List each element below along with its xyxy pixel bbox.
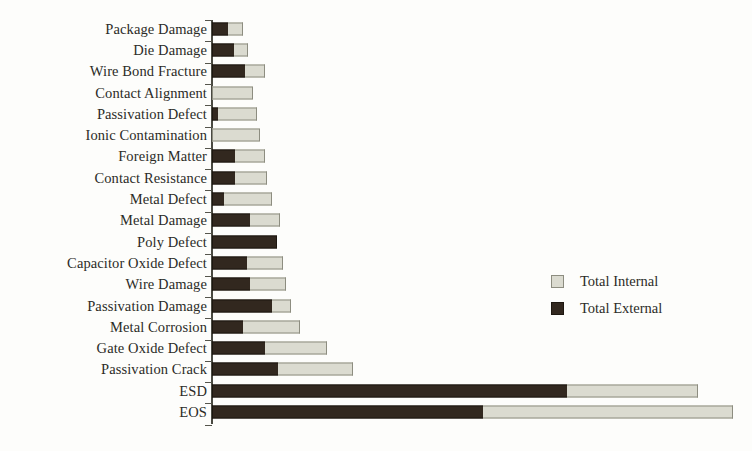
bar-segment-total-internal[interactable]: [250, 278, 286, 291]
stacked-bar[interactable]: [212, 86, 253, 99]
category-label: Wire Damage: [126, 277, 207, 292]
bar-row: Metal Damage: [0, 210, 752, 231]
bar-segment-total-external[interactable]: [212, 256, 247, 269]
bar-segment-total-external[interactable]: [212, 22, 228, 35]
chart-legend: Total Internal Total External: [551, 268, 741, 322]
bar-segment-total-external[interactable]: [212, 65, 245, 78]
legend-label-total-external: Total External: [580, 301, 662, 316]
bar-segment-total-external[interactable]: [212, 363, 278, 376]
stacked-bar[interactable]: [212, 299, 291, 312]
bar-segment-total-internal[interactable]: [265, 342, 327, 355]
stacked-bar[interactable]: [212, 235, 277, 248]
y-axis-tick: [205, 41, 212, 42]
bar-segment-total-internal[interactable]: [247, 256, 283, 269]
y-axis-tick: [205, 169, 212, 170]
category-label: Die Damage: [133, 43, 207, 58]
category-label: Ionic Contamination: [85, 128, 207, 143]
bar-segment-total-internal[interactable]: [224, 193, 272, 206]
stacked-bar[interactable]: [212, 384, 698, 397]
bar-segment-total-internal[interactable]: [235, 150, 265, 163]
bar-segment-total-external[interactable]: [212, 342, 265, 355]
bar-row: EOS: [0, 401, 752, 422]
legend-entry-total-internal[interactable]: Total Internal: [551, 268, 741, 295]
bar-segment-total-external[interactable]: [212, 43, 234, 56]
stacked-bar[interactable]: [212, 22, 243, 35]
category-label: Gate Oxide Defect: [97, 341, 207, 356]
category-label: Metal Damage: [120, 213, 207, 228]
bar-row: Foreign Matter: [0, 146, 752, 167]
bar-segment-total-internal[interactable]: [212, 86, 253, 99]
bar-segment-total-internal[interactable]: [212, 129, 260, 142]
bar-segment-total-external[interactable]: [212, 299, 272, 312]
category-label: Capacitor Oxide Defect: [67, 256, 207, 271]
stacked-bar[interactable]: [212, 320, 300, 333]
y-axis-tick: [205, 84, 212, 85]
y-axis-tick: [205, 340, 212, 341]
stacked-bar[interactable]: [212, 107, 257, 120]
category-label: Foreign Matter: [118, 149, 207, 164]
bar-row: Contact Alignment: [0, 82, 752, 103]
bar-segment-total-internal[interactable]: [234, 43, 248, 56]
y-axis-tick: [205, 212, 212, 213]
y-axis-tick: [205, 233, 212, 234]
y-axis-tick: [205, 425, 212, 426]
stacked-bar[interactable]: [212, 342, 327, 355]
category-label: ESD: [179, 383, 207, 398]
legend-swatch-external-icon: [551, 302, 564, 315]
bar-row: Die Damage: [0, 39, 752, 60]
legend-entry-total-external[interactable]: Total External: [551, 295, 741, 322]
bar-segment-total-external[interactable]: [212, 171, 235, 184]
bar-segment-total-internal[interactable]: [228, 22, 243, 35]
stacked-bar[interactable]: [212, 363, 353, 376]
y-axis-tick: [205, 297, 212, 298]
failure-mode-bar-chart: Package DamageDie DamageWire Bond Fractu…: [0, 0, 752, 451]
bar-segment-total-internal[interactable]: [250, 214, 280, 227]
bar-row: Passivation Defect: [0, 103, 752, 124]
category-label: Package Damage: [105, 21, 207, 36]
bar-segment-total-internal[interactable]: [272, 299, 291, 312]
bar-row: Passivation Crack: [0, 359, 752, 380]
stacked-bar[interactable]: [212, 193, 272, 206]
bar-segment-total-external[interactable]: [212, 214, 250, 227]
bar-segment-total-internal[interactable]: [567, 384, 698, 397]
stacked-bar[interactable]: [212, 129, 260, 142]
bar-segment-total-external[interactable]: [212, 150, 235, 163]
y-axis-tick: [205, 361, 212, 362]
bar-segment-total-internal[interactable]: [245, 65, 265, 78]
bar-segment-total-internal[interactable]: [483, 405, 733, 418]
stacked-bar[interactable]: [212, 405, 733, 418]
stacked-bar[interactable]: [212, 43, 248, 56]
category-label: Passivation Crack: [101, 362, 207, 377]
stacked-bar[interactable]: [212, 256, 283, 269]
stacked-bar[interactable]: [212, 214, 280, 227]
bar-segment-total-internal[interactable]: [235, 171, 267, 184]
bar-segment-total-external[interactable]: [212, 384, 567, 397]
y-axis-tick: [205, 20, 212, 21]
bar-segment-total-external[interactable]: [212, 278, 250, 291]
category-label: Passivation Defect: [97, 107, 207, 122]
bar-segment-total-internal[interactable]: [278, 363, 353, 376]
y-axis-tick: [205, 276, 212, 277]
bar-segment-total-external[interactable]: [212, 193, 224, 206]
bar-segment-total-external[interactable]: [212, 405, 483, 418]
y-axis-tick: [205, 63, 212, 64]
bar-segment-total-external[interactable]: [212, 320, 243, 333]
bar-rows-container: Package DamageDie DamageWire Bond Fractu…: [0, 18, 752, 423]
y-axis-tick: [205, 190, 212, 191]
bar-segment-total-internal[interactable]: [243, 320, 300, 333]
stacked-bar[interactable]: [212, 65, 265, 78]
bar-segment-total-external[interactable]: [212, 235, 277, 248]
bar-row: ESD: [0, 380, 752, 401]
category-label: Metal Defect: [130, 192, 207, 207]
category-label: EOS: [179, 405, 207, 420]
y-axis-tick: [205, 382, 212, 383]
plot-area: Package DamageDie DamageWire Bond Fractu…: [0, 18, 752, 428]
stacked-bar[interactable]: [212, 171, 267, 184]
stacked-bar[interactable]: [212, 278, 286, 291]
stacked-bar[interactable]: [212, 150, 265, 163]
category-label: Contact Alignment: [95, 85, 207, 100]
bar-segment-total-internal[interactable]: [218, 107, 257, 120]
y-axis-tick: [205, 403, 212, 404]
category-label: Wire Bond Fracture: [90, 64, 207, 79]
category-label: Poly Defect: [137, 234, 207, 249]
